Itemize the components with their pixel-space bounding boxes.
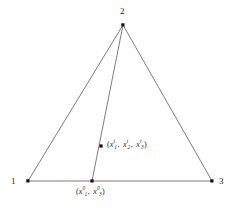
- edge-vertex2-to-vertex3: [123, 25, 212, 181]
- base-label-term-1-sub: 1: [85, 191, 88, 197]
- triangle-diagram-svg: [0, 0, 237, 217]
- interior-label-term-3-sub: 3: [141, 144, 144, 150]
- vertex-label-3: 3: [219, 177, 224, 186]
- geometry-figure: 1 2 3 (x01, x03) (xt1, xt2, xt3): [0, 0, 237, 217]
- interior-label-term-1-sub: 1: [114, 144, 117, 150]
- interior-label-term-1: xt1: [110, 140, 118, 149]
- interior-point-coordinate-label: (xt1, xt2, xt3): [107, 141, 147, 149]
- interior-label-term-2-sub: 2: [128, 144, 131, 150]
- interior-label-separator-2: ,: [131, 140, 135, 149]
- base-label-term-2: x03: [93, 187, 102, 196]
- vertex-label-2: 2: [120, 7, 125, 16]
- base-label-term-2-sub: 3: [99, 191, 102, 197]
- interior-label-separator-1: ,: [117, 140, 121, 149]
- base-label-separator-1: ,: [88, 187, 92, 196]
- interior-label-close-paren: ): [144, 140, 147, 149]
- vertex3-point-marker: [210, 179, 213, 182]
- base-point-marker: [90, 179, 93, 182]
- base-label-term-1: x01: [79, 187, 88, 196]
- vertex2-point-marker: [121, 23, 124, 26]
- interior-label-term-2: xt2: [123, 140, 131, 149]
- base-label-close-paren: ): [102, 187, 105, 196]
- vertex-label-1: 1: [11, 177, 16, 186]
- interior-label-term-2-base: x: [123, 140, 127, 149]
- interior-point-marker: [99, 144, 102, 147]
- base-point-coordinate-label: (x01, x03): [76, 188, 105, 196]
- cevian-line-vertex2-to-base-point: [92, 25, 123, 181]
- vertex1-point-marker: [26, 179, 29, 182]
- interior-label-term-3: xt3: [136, 140, 144, 149]
- edge-vertex1-to-vertex2: [28, 25, 123, 181]
